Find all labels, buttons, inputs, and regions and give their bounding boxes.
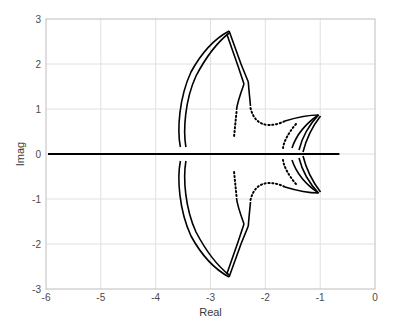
y-axis-label: Imag [14,142,26,166]
root-locus-figure: -6 -5 -4 -3 -2 -1 0 3 2 1 0 -1 -2 -3 Rea… [0,0,396,335]
x-tick: -4 [151,292,160,303]
x-axis-label: Real [199,306,222,318]
x-tick: 0 [372,292,378,303]
x-tick: -3 [206,292,215,303]
x-tick: -5 [96,292,105,303]
y-tick: 1 [35,104,41,115]
y-tick: -2 [32,239,41,250]
x-tick: -2 [261,292,270,303]
y-tick: -1 [32,194,41,205]
y-tick: 3 [35,14,41,25]
y-tick: 0 [35,149,41,160]
y-tick: 2 [35,59,41,70]
x-tick: -6 [42,292,51,303]
x-tick: -1 [316,292,325,303]
y-tick: -3 [32,284,41,295]
